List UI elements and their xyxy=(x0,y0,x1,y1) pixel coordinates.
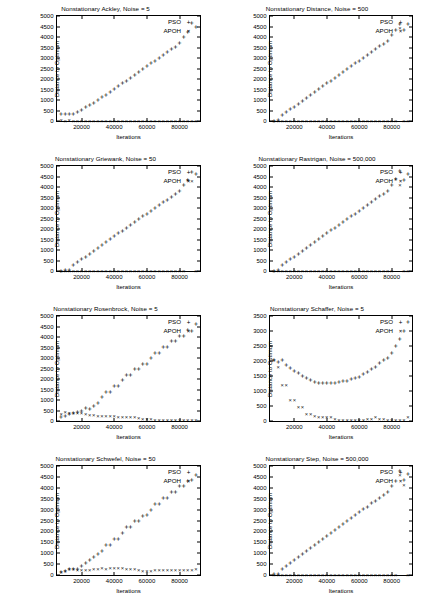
y-tick-mark xyxy=(197,110,200,111)
data-point-apoh: × xyxy=(374,268,377,274)
y-tick-label: 0 xyxy=(50,418,57,424)
data-point-apoh: × xyxy=(313,118,316,124)
data-point-apoh: × xyxy=(80,118,83,124)
y-tick-mark xyxy=(409,391,412,392)
data-point-apoh: × xyxy=(386,417,389,423)
y-tick-mark xyxy=(270,100,273,101)
y-tick-mark xyxy=(270,110,273,111)
data-point-apoh: × xyxy=(333,572,336,578)
data-point-apoh: × xyxy=(166,567,169,573)
data-point-apoh: × xyxy=(145,268,148,274)
data-point-apoh: × xyxy=(366,416,369,422)
data-point-apoh: × xyxy=(76,118,79,124)
data-point-apoh: × xyxy=(157,118,160,124)
data-point-apoh: × xyxy=(378,268,381,274)
y-tick-mark xyxy=(57,47,60,48)
y-tick-mark xyxy=(57,79,60,80)
data-point-apoh: × xyxy=(186,417,189,423)
data-point-apoh: × xyxy=(297,572,300,578)
legend-label: PSO xyxy=(168,318,181,325)
x-tick-mark xyxy=(146,166,147,169)
x-tick-label: 60000 xyxy=(139,124,156,130)
y-tick-mark xyxy=(197,208,200,209)
y-tick-mark xyxy=(409,58,412,59)
data-point-apoh: × xyxy=(297,268,300,274)
data-point-apoh: × xyxy=(289,572,292,578)
y-tick-mark xyxy=(409,100,412,101)
data-point-apoh: × xyxy=(174,417,177,423)
data-point-pso: + xyxy=(190,328,194,334)
data-point-apoh: × xyxy=(190,178,193,184)
y-tick-mark xyxy=(270,509,273,510)
data-point-apoh: × xyxy=(345,118,348,124)
data-point-apoh: × xyxy=(84,411,87,417)
data-point-apoh: × xyxy=(104,566,107,572)
data-point-apoh: × xyxy=(301,572,304,578)
data-point-apoh: × xyxy=(309,268,312,274)
y-tick-label: 3500 xyxy=(253,313,270,319)
x-tick-mark xyxy=(146,16,147,19)
y-axis-label: Distance to Optimum xyxy=(267,323,273,415)
y-tick-mark xyxy=(57,358,60,359)
x-tick-mark xyxy=(81,166,82,169)
data-point-apoh: × xyxy=(68,566,71,572)
y-tick-label: 2000 xyxy=(40,528,57,534)
plot-area: Distance to OptimumIterations05001000150… xyxy=(56,315,201,422)
y-tick-mark xyxy=(409,229,412,230)
data-point-apoh: × xyxy=(341,268,344,274)
y-tick-mark xyxy=(197,347,200,348)
y-tick-mark xyxy=(197,337,200,338)
data-point-apoh: × xyxy=(63,118,66,124)
data-point-apoh: × xyxy=(366,572,369,578)
x-tick-label: 40000 xyxy=(318,424,335,430)
y-tick-mark xyxy=(57,564,60,565)
data-point-apoh: × xyxy=(329,572,332,578)
y-tick-label: 4000 xyxy=(253,184,270,190)
legend-label: PSO xyxy=(380,168,393,175)
data-point-apoh: × xyxy=(406,268,409,274)
y-tick-mark xyxy=(57,553,60,554)
x-axis-label: Iterations xyxy=(270,588,412,594)
data-point-apoh: × xyxy=(88,412,91,418)
data-point-apoh: × xyxy=(72,410,75,416)
y-tick-label: 1000 xyxy=(253,550,270,556)
data-point-apoh: × xyxy=(59,268,62,274)
data-point-apoh: × xyxy=(325,118,328,124)
data-point-apoh: × xyxy=(309,572,312,578)
data-point-apoh: × xyxy=(317,268,320,274)
y-tick-mark xyxy=(57,400,60,401)
data-point-apoh: × xyxy=(280,382,283,388)
data-point-apoh: × xyxy=(182,567,185,573)
y-tick-label: 500 xyxy=(43,108,57,114)
y-tick-mark xyxy=(409,79,412,80)
y-tick-mark xyxy=(197,37,200,38)
y-tick-mark xyxy=(409,466,412,467)
y-tick-label: 1500 xyxy=(253,87,270,93)
data-point-apoh: × xyxy=(68,268,71,274)
y-tick-mark xyxy=(197,79,200,80)
y-tick-mark xyxy=(197,466,200,467)
data-point-apoh: × xyxy=(121,268,124,274)
chart-title: Nonstationary Step, Noise = 500,000 xyxy=(211,455,423,463)
y-tick-label: 0 xyxy=(50,572,57,578)
data-point-apoh: × xyxy=(76,268,79,274)
data-point-apoh: × xyxy=(117,118,120,124)
y-tick-mark xyxy=(270,58,273,59)
y-tick-label: 3000 xyxy=(253,507,270,513)
data-point-apoh: × xyxy=(194,268,197,274)
data-point-apoh: × xyxy=(285,268,288,274)
data-point-apoh: × xyxy=(174,118,177,124)
data-point-apoh: × xyxy=(402,417,405,423)
y-tick-label: 500 xyxy=(256,403,270,409)
data-point-pso: + xyxy=(406,319,410,325)
y-tick-mark xyxy=(57,176,60,177)
data-point-apoh: × xyxy=(92,412,95,418)
y-tick-mark xyxy=(197,368,200,369)
data-point-apoh: × xyxy=(313,572,316,578)
y-tick-mark xyxy=(270,466,273,467)
y-tick-mark xyxy=(57,250,60,251)
data-point-apoh: × xyxy=(88,268,91,274)
data-point-apoh: × xyxy=(108,565,111,571)
x-tick-label: 80000 xyxy=(383,578,400,584)
y-tick-mark xyxy=(57,498,60,499)
